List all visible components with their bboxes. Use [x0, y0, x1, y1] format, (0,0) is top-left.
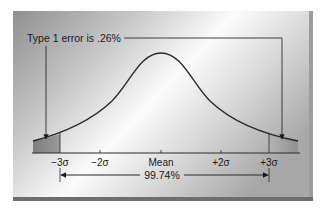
panel-bottom-edge — [13, 197, 313, 201]
tick-label-minus3: −3σ — [51, 157, 69, 168]
normal-distribution-figure: −3σ −2σ Mean +2σ +3σ 99.74% Type 1 error… — [0, 0, 322, 216]
tick-label-mean: Mean — [148, 157, 173, 168]
tick-label-minus2: −2σ — [91, 157, 109, 168]
tick-label-plus2: +2σ — [212, 157, 230, 168]
tick-label-plus3: +3σ — [260, 157, 278, 168]
type1-error-label: Type 1 error is .26% — [27, 32, 121, 44]
panel-right-edge — [309, 11, 313, 201]
coverage-label: 99.74% — [144, 169, 180, 181]
chart-canvas: −3σ −2σ Mean +2σ +3σ 99.74% Type 1 error… — [0, 0, 322, 216]
